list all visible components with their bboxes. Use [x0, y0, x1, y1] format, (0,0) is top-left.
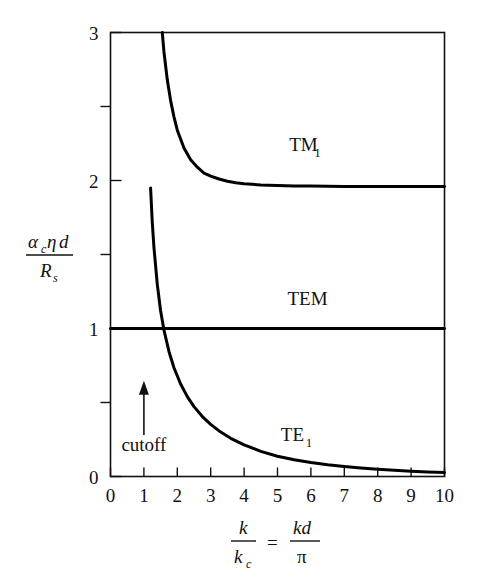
- x-tick-label: 8: [373, 485, 383, 506]
- x-tick-label: 1: [139, 485, 149, 506]
- y-tick-label: 1: [89, 319, 99, 340]
- x-tick-label: 9: [406, 485, 416, 506]
- y-axis-eta: η: [47, 231, 56, 252]
- chart-figure: 012345678910 0123 TM1TEMTE1 cutoff α c η…: [0, 0, 496, 587]
- x-tick-label: 2: [173, 485, 183, 506]
- y-axis-d: d: [59, 231, 69, 252]
- x-axis-k-numerator: k: [239, 517, 248, 538]
- x-axis-kd-numerator: kd: [293, 517, 311, 538]
- x-tick-label: 3: [206, 485, 216, 506]
- x-axis-kc-subscript: c: [246, 557, 252, 571]
- y-tick-label: 2: [89, 171, 99, 192]
- y-tick-label: 0: [89, 467, 99, 488]
- x-axis-kc-denominator: k: [234, 546, 243, 567]
- attenuation-chart: 012345678910 0123 TM1TEMTE1 cutoff α c η…: [0, 0, 496, 587]
- y-tick-label: 3: [89, 23, 99, 44]
- y-axis-alpha: α: [28, 231, 39, 252]
- curve-label-subscript-te1: 1: [306, 435, 313, 450]
- cutoff-label: cutoff: [121, 434, 167, 455]
- y-axis-R-subscript: s: [53, 271, 58, 285]
- x-tick-label: 5: [273, 485, 283, 506]
- y-axis-R: R: [39, 260, 52, 281]
- x-tick-label: 7: [340, 485, 350, 506]
- x-tick-label: 10: [435, 485, 454, 506]
- curve-label-te1: TE: [281, 424, 304, 445]
- x-axis-equals: =: [267, 532, 278, 553]
- x-tick-label: 4: [239, 485, 249, 506]
- curve-label-tem: TEM: [288, 288, 328, 309]
- x-axis-pi-denominator: π: [297, 546, 307, 567]
- x-tick-label: 6: [306, 485, 316, 506]
- x-tick-label: 0: [106, 485, 116, 506]
- curve-label-subscript-tm1: 1: [314, 145, 321, 160]
